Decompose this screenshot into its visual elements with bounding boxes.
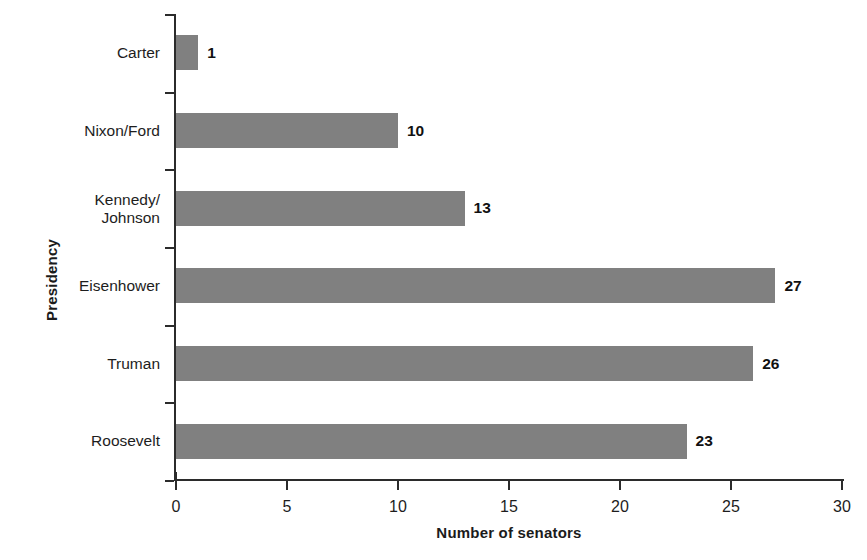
bar-value-label: 26 xyxy=(762,355,779,373)
x-axis-tick xyxy=(175,472,177,490)
y-axis-line xyxy=(174,14,176,480)
x-axis-tick-label: 0 xyxy=(172,498,181,516)
x-axis-tick xyxy=(841,481,843,490)
x-axis-tick xyxy=(286,481,288,490)
y-axis-tick xyxy=(165,14,174,16)
x-axis-tick-label: 10 xyxy=(389,498,407,516)
x-axis-tick-label: 25 xyxy=(722,498,740,516)
bar xyxy=(176,346,753,381)
bar-value-label: 23 xyxy=(696,432,713,450)
x-axis-tick-label: 20 xyxy=(611,498,629,516)
bar xyxy=(176,113,398,148)
x-axis-tick-label: 30 xyxy=(833,498,851,516)
bar-value-label: 1 xyxy=(207,44,216,62)
x-axis-title: Number of senators xyxy=(176,524,842,541)
x-axis-tick-label: 15 xyxy=(500,498,518,516)
plot-area: 051015202530 11013272623 xyxy=(176,14,842,480)
bar-value-label: 27 xyxy=(784,277,801,295)
y-axis-tick xyxy=(165,169,174,171)
y-axis-tick-label: Carter xyxy=(36,44,160,62)
y-axis-tick-labels: Carter Nixon/Ford Kennedy/ Johnson Eisen… xyxy=(40,14,168,480)
bar-chart: Presidency Carter Nixon/Ford Kennedy/ Jo… xyxy=(0,0,867,560)
x-axis-tick-label: 5 xyxy=(283,498,292,516)
y-axis-tick xyxy=(165,480,174,482)
y-axis-tick xyxy=(165,402,174,404)
y-axis-tick xyxy=(165,92,174,94)
x-axis-tick xyxy=(619,481,621,490)
y-axis-tick-label: Kennedy/ Johnson xyxy=(36,191,160,226)
y-axis-tick xyxy=(165,325,174,327)
bar xyxy=(176,424,687,459)
x-axis-tick xyxy=(730,481,732,490)
x-axis-tick xyxy=(508,481,510,490)
bar xyxy=(176,268,775,303)
y-axis-tick-label: Eisenhower xyxy=(36,277,160,295)
bar-value-label: 13 xyxy=(474,199,491,217)
x-axis-tick xyxy=(397,481,399,490)
bar xyxy=(176,35,198,70)
y-axis-tick-label: Roosevelt xyxy=(36,432,160,450)
bar-value-label: 10 xyxy=(407,122,424,140)
y-axis-tick-label: Nixon/Ford xyxy=(36,122,160,140)
y-axis-tick-label: Truman xyxy=(36,355,160,373)
y-axis-tick xyxy=(165,247,174,249)
bar xyxy=(176,191,465,226)
